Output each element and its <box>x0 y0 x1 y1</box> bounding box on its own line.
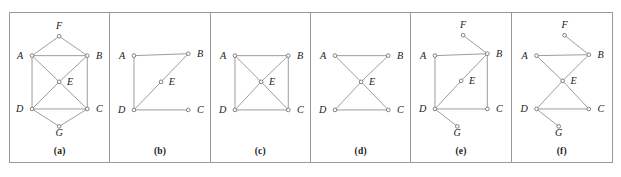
graph-vertex-E <box>259 80 263 84</box>
graph-edge-ED <box>536 81 562 109</box>
graph-edge-DE <box>435 81 461 109</box>
graph-edge-AB <box>536 55 588 56</box>
graph-vertex-B <box>486 52 490 56</box>
graph-vertex-label-A: A <box>118 50 126 61</box>
graph-vertex-F <box>562 33 566 37</box>
graph-vertex-label-D: D <box>519 103 528 114</box>
graph-vertex-A <box>233 54 237 58</box>
graph-vertex-label-D: D <box>15 103 24 114</box>
graph-vertex-A <box>534 54 538 58</box>
graph-vertex-label-C: C <box>397 104 404 115</box>
graph-vertex-B <box>587 53 591 57</box>
graph-vertex-C <box>85 107 89 111</box>
graph-vertex-label-G: G <box>454 127 462 138</box>
graph-vertex-label-C: C <box>96 103 103 114</box>
panel-caption: (a) <box>10 146 109 156</box>
graph-vertex-label-G: G <box>555 127 563 138</box>
graph-vertex-label-B: B <box>197 48 203 59</box>
graph-vertex-B <box>386 54 390 58</box>
graph-vertex-B <box>286 54 290 58</box>
graph-vertex-label-B: B <box>397 50 403 61</box>
graph-vertex-E <box>57 80 61 84</box>
graph-vertex-label-F: F <box>560 19 568 30</box>
graph-panel-b: ABCDE(b) <box>110 13 210 162</box>
graph-edge-DG <box>32 109 59 126</box>
graph-vertex-label-C: C <box>597 103 604 114</box>
graph-edge-ED <box>335 82 361 110</box>
graph-vertex-D <box>534 107 538 111</box>
graph-edge-FB <box>463 35 487 53</box>
graph-vertex-F <box>57 34 61 38</box>
graph-edge-DE <box>134 82 161 110</box>
graph-vertex-C <box>187 108 191 112</box>
graph-vertex-label-C: C <box>496 103 503 114</box>
graph-vertex-label-A: A <box>219 50 227 61</box>
graph-vertex-label-D: D <box>318 104 327 115</box>
graph-edge-AB <box>134 54 188 56</box>
graph-vertex-label-E: E <box>468 75 476 86</box>
graph-vertex-label-E: E <box>66 76 74 87</box>
panel-caption: (b) <box>110 146 209 156</box>
graph-vertex-A <box>433 54 437 58</box>
graph-figure-table: ABCDEFG(a)ABCDE(b)ABCDE(c)ABCDE(d)ABCDEF… <box>9 12 613 163</box>
graph-panel-d: ABCDE(d) <box>311 13 411 162</box>
graph-vertex-C <box>386 108 390 112</box>
graph-panel-f: ABCDEFG(f) <box>512 13 612 162</box>
panel-caption: (d) <box>311 146 410 156</box>
graph-vertex-D <box>30 107 34 111</box>
graph-edge-DG <box>435 109 457 126</box>
graph-vertex-label-E: E <box>569 75 577 86</box>
graph-edge-DG <box>536 109 558 126</box>
graph-vertex-D <box>233 108 237 112</box>
graph-edge-DE <box>32 82 59 109</box>
graph-panel-c: ABCDE(c) <box>211 13 311 162</box>
graph-edge-AE <box>335 56 361 82</box>
graph-vertex-label-F: F <box>459 19 467 30</box>
panel-caption: (e) <box>411 146 510 156</box>
graph-vertex-label-D: D <box>218 104 227 115</box>
graph-vertex-label-E: E <box>368 76 376 87</box>
graph-vertex-F <box>462 33 466 37</box>
graph-drawing: ABCDE <box>311 13 410 139</box>
graph-vertex-A <box>30 54 34 58</box>
graph-vertex-B <box>187 52 191 56</box>
graph-vertex-D <box>333 108 337 112</box>
graph-vertex-label-B: B <box>597 49 603 60</box>
graph-vertex-A <box>333 54 337 58</box>
graph-edge-CE <box>59 82 87 109</box>
graph-vertex-label-D: D <box>418 103 427 114</box>
graph-vertex-label-B: B <box>96 50 102 61</box>
graph-drawing: ABCDE <box>110 13 209 139</box>
graph-edge-DE <box>235 82 261 110</box>
graph-vertex-C <box>486 107 490 111</box>
graph-drawing: ABCDEFG <box>10 13 109 139</box>
graph-panel-a: ABCDEFG(a) <box>10 13 110 162</box>
graph-vertex-E <box>359 80 363 84</box>
graph-vertex-label-E: E <box>168 76 176 87</box>
graph-vertex-E <box>460 79 464 83</box>
graph-vertex-label-C: C <box>197 104 204 115</box>
graph-vertex-D <box>132 108 136 112</box>
graph-vertex-C <box>286 108 290 112</box>
graph-vertex-label-B: B <box>297 50 303 61</box>
graph-vertex-label-C: C <box>297 104 304 115</box>
graph-vertex-label-E: E <box>268 76 276 87</box>
graph-drawing: ABCDE <box>211 13 310 139</box>
graph-vertex-C <box>587 107 591 111</box>
graph-vertex-E <box>560 79 564 83</box>
graph-edge-AE <box>32 56 59 82</box>
graph-vertex-label-A: A <box>520 50 528 61</box>
graph-vertex-E <box>160 80 164 84</box>
panel-caption: (c) <box>211 146 310 156</box>
graph-vertex-B <box>85 54 89 58</box>
graph-vertex-label-G: G <box>56 127 64 138</box>
graph-vertex-label-B: B <box>496 48 502 59</box>
graph-vertex-D <box>433 107 437 111</box>
panel-caption: (f) <box>512 146 612 156</box>
graph-edge-CG <box>59 109 87 126</box>
graph-drawing: ABCDEFG <box>411 13 510 139</box>
graph-panel-e: ABCDEFG(e) <box>411 13 511 162</box>
graph-vertex-label-D: D <box>117 104 126 115</box>
graph-edge-AB <box>435 54 487 56</box>
graph-drawing: ABCDEFG <box>512 13 612 139</box>
